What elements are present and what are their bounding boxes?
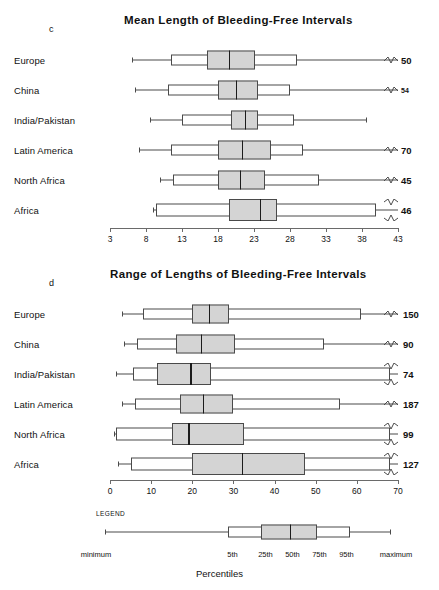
whisker-left xyxy=(139,150,171,151)
median-line xyxy=(190,363,191,385)
whisker-right xyxy=(294,120,366,121)
row-label-china: China xyxy=(14,85,39,96)
whisker-right xyxy=(361,314,398,315)
panel-c-letter: c xyxy=(49,24,54,34)
panel-d-letter: d xyxy=(49,278,54,288)
whisker-cap-left xyxy=(153,208,154,213)
row-label-north-africa: North Africa xyxy=(14,175,65,186)
axis-tick-label: 70 xyxy=(393,486,402,496)
row-label-africa: Africa xyxy=(14,205,39,216)
axis-tick xyxy=(192,480,193,484)
legend-mark-label: 50th xyxy=(285,550,300,559)
legend-mark-label: 5th xyxy=(227,550,237,559)
plot-area xyxy=(110,44,439,76)
axis-tick-label: 20 xyxy=(188,486,197,496)
median-line xyxy=(188,423,189,445)
boxplot-row: Africa46 xyxy=(0,194,439,226)
box-25-75 xyxy=(192,305,229,324)
median-line xyxy=(242,453,243,475)
axis-tick-label: 10 xyxy=(146,486,155,496)
legend-heading: LEGEND xyxy=(96,510,125,517)
row-label-africa: Africa xyxy=(14,459,39,470)
boxplot-row: Latin America187 xyxy=(0,388,439,420)
boxplot xyxy=(110,418,439,450)
boxplot-row: Europe150 xyxy=(0,298,439,330)
boxplot-row: Africa127 xyxy=(0,448,439,480)
whisker-cap-left xyxy=(122,402,123,407)
sample-size-value: 150 xyxy=(403,309,419,320)
plot-area xyxy=(110,448,439,480)
plot-area xyxy=(110,164,439,196)
axis-tick xyxy=(398,480,399,484)
plot-area xyxy=(110,298,439,330)
legend-mark-label: maximum xyxy=(380,550,413,559)
whisker-cap-left xyxy=(132,58,133,63)
box-25-75 xyxy=(229,199,277,221)
row-label-north-africa: North Africa xyxy=(14,429,65,440)
boxplot-row: North Africa99 xyxy=(0,418,439,450)
whisker-cap-left xyxy=(122,312,123,317)
axis-tick-label: 8 xyxy=(144,234,149,244)
axis-tick xyxy=(357,480,358,484)
median-line xyxy=(209,305,210,324)
box-25-75 xyxy=(218,171,265,190)
axis-tick-label: 60 xyxy=(352,486,361,496)
boxplot-row: India/Pakistan74 xyxy=(0,358,439,390)
boxplot xyxy=(110,194,439,226)
axis-tick-label: 28 xyxy=(285,234,294,244)
box-5-95 xyxy=(116,428,390,441)
whisker-cap-left xyxy=(150,118,151,123)
axis-tick xyxy=(218,228,219,232)
axis-tick-label: 40 xyxy=(270,486,279,496)
whisker-right xyxy=(340,404,398,405)
whisker-left xyxy=(116,374,132,375)
panel-d-title: Range of Lengths of Bleeding-Free Interv… xyxy=(110,268,367,280)
whisker-right xyxy=(376,210,398,211)
axis-tick-label: 18 xyxy=(213,234,222,244)
box-25-75 xyxy=(176,335,236,354)
axis-tick xyxy=(290,228,291,232)
plot-area xyxy=(110,418,439,450)
axis-tick xyxy=(254,228,255,232)
axis-tick-label: 23 xyxy=(249,234,258,244)
box-25-75 xyxy=(218,141,271,160)
legend-axis-title: Percentiles xyxy=(0,568,439,579)
box-25-75 xyxy=(157,363,210,385)
box-5-95 xyxy=(143,309,361,320)
plot-area xyxy=(110,134,439,166)
median-line xyxy=(290,525,291,540)
boxplot xyxy=(110,388,439,420)
whisker-cap-right xyxy=(390,530,391,535)
median-line xyxy=(260,199,261,221)
axis-tick xyxy=(398,228,399,232)
sample-size-value: 127 xyxy=(403,459,419,470)
sample-size-value: 54 xyxy=(401,87,409,94)
whisker-right xyxy=(390,374,398,375)
median-line xyxy=(236,81,237,100)
median-line xyxy=(229,51,230,70)
whisker-right xyxy=(390,434,398,435)
whisker-left xyxy=(122,314,143,315)
boxplot-row: North Africa45 xyxy=(0,164,439,196)
whisker-left xyxy=(150,120,182,121)
boxplot-row: Latin America70 xyxy=(0,134,439,166)
whisker-cap-left xyxy=(105,530,106,535)
panel-d: d Range of Lengths of Bleeding-Free Inte… xyxy=(0,258,439,506)
boxplot-row: Europe50 xyxy=(0,44,439,76)
boxplot-figure: c Mean Length of Bleeding-Free Intervals… xyxy=(0,0,439,590)
legend-boxplot xyxy=(96,522,396,542)
axis-tick xyxy=(233,480,234,484)
axis-tick xyxy=(146,228,147,232)
axis-tick-label: 50 xyxy=(311,486,320,496)
whisker-left xyxy=(122,404,134,405)
legend-mark-label: 95th xyxy=(339,550,354,559)
axis-tick-label: 38 xyxy=(357,234,366,244)
whisker-left xyxy=(118,464,130,465)
sample-size-value: 74 xyxy=(403,369,414,380)
boxplot xyxy=(110,328,439,360)
whisker-right xyxy=(303,150,398,151)
sample-size-value: 45 xyxy=(401,175,412,186)
row-label-europe: Europe xyxy=(14,55,45,66)
axis-tick xyxy=(316,480,317,484)
boxplot xyxy=(110,358,439,390)
